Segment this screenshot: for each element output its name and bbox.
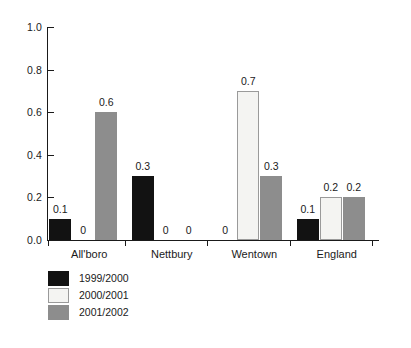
plot-area xyxy=(48,27,378,240)
bar-value-label: 0 xyxy=(172,225,206,236)
x-axis-category-label: Nettbury xyxy=(131,248,214,260)
bar xyxy=(95,112,117,240)
chart-legend: 1999/20002000/20012001/2002 xyxy=(48,270,129,321)
bar-value-label: 0.6 xyxy=(89,97,123,108)
bar xyxy=(297,219,319,240)
x-axis-category-label: All'boro xyxy=(48,248,131,260)
legend-item: 1999/2000 xyxy=(48,270,129,287)
y-axis-tick-label: 0.8 xyxy=(2,65,42,76)
bar-value-label: 0.1 xyxy=(291,204,325,215)
legend-label: 2000/2001 xyxy=(79,290,129,301)
bar-value-label: 0 xyxy=(208,225,242,236)
x-axis-category-label: England xyxy=(296,248,379,260)
y-axis-tick-label: 0.4 xyxy=(2,150,42,161)
x-axis-category-label: Wentown xyxy=(213,248,296,260)
legend-item: 2000/2001 xyxy=(48,287,129,304)
legend-label: 1999/2000 xyxy=(79,273,129,284)
legend-swatch xyxy=(48,288,69,303)
x-axis-tick xyxy=(372,241,373,246)
bar xyxy=(343,197,365,240)
legend-label: 2001/2002 xyxy=(79,307,129,318)
bar-value-label: 0.3 xyxy=(126,161,160,172)
bar-value-label: 0 xyxy=(66,225,100,236)
x-axis-tick xyxy=(48,241,49,246)
y-axis-tick-label: 1.0 xyxy=(2,22,42,33)
y-axis-tick-label: 0.6 xyxy=(2,107,42,118)
x-axis-tick xyxy=(207,241,208,246)
bar xyxy=(260,176,282,240)
x-axis-tick xyxy=(290,241,291,246)
bar-value-label: 0.1 xyxy=(43,204,77,215)
bar-value-label: 0.7 xyxy=(231,76,265,87)
legend-swatch xyxy=(48,305,69,320)
y-axis-tick-label: 0.2 xyxy=(2,192,42,203)
bar-value-label: 0.3 xyxy=(254,161,288,172)
bar-chart: 0.00.20.40.60.81.0 All'boroNettburyWento… xyxy=(0,0,411,348)
x-axis-tick xyxy=(125,241,126,246)
x-axis-line xyxy=(47,240,379,241)
legend-swatch xyxy=(48,271,69,286)
y-axis-tick-label: 0.0 xyxy=(2,235,42,246)
legend-item: 2001/2002 xyxy=(48,304,129,321)
bar-value-label: 0.2 xyxy=(337,182,371,193)
